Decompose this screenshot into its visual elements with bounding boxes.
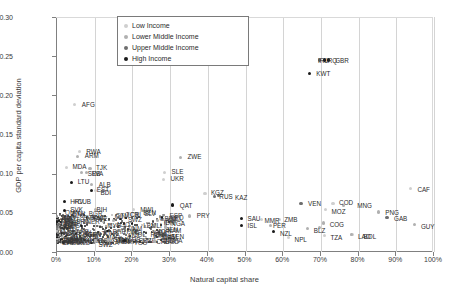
data-point-label: BDI [101, 190, 112, 196]
x-tick-label: 90% [375, 256, 415, 263]
data-point-label: CUB [78, 199, 91, 205]
scatter-chart: 0%10%20%30%40%50%60%70%80%90%100%0.000.0… [0, 0, 449, 296]
data-point-label: GTM [113, 237, 127, 243]
y-tick-label: 0.25 [0, 53, 13, 60]
y-tick-mark [52, 135, 56, 136]
data-point-label: LTU [78, 179, 89, 185]
data-point-label: GTM [115, 213, 129, 219]
data-point-label: BIH [97, 207, 108, 213]
data-point-label: SWZ [99, 242, 113, 248]
data-point [59, 234, 61, 236]
data-point-label: ISL [247, 223, 256, 229]
data-point [162, 178, 165, 181]
x-tick-label: 70% [300, 256, 340, 263]
data-point [322, 221, 325, 224]
data-point-label: MOZ [332, 209, 346, 215]
data-point-label: NLD [78, 240, 91, 246]
data-point-label: GBR [335, 58, 349, 64]
x-tick-label: 50% [225, 256, 265, 263]
data-point-label: GUY [421, 224, 435, 230]
legend-item-upper-middle-income[interactable]: Upper Middle Income [124, 42, 248, 53]
data-point-label: SVK [70, 207, 83, 213]
data-point-label: LVA [92, 171, 103, 177]
data-point-label: KAZ [235, 195, 247, 201]
data-point-label: GAB [394, 216, 407, 222]
legend-marker-high-income [124, 57, 128, 61]
data-point [240, 217, 243, 220]
data-point-label: CAF [417, 187, 430, 193]
x-tick-label: 0% [36, 256, 76, 263]
data-point-label: AUS [67, 223, 80, 229]
data-point-label: BLZ [314, 228, 326, 234]
data-point-label: PER [273, 223, 286, 229]
data-point-label: COD [339, 200, 353, 206]
data-point-label: MLI [151, 223, 162, 229]
y-tick-mark [52, 95, 56, 96]
data-point-label: VEN [308, 201, 321, 207]
data-point [163, 171, 166, 174]
data-point-label: VNM [128, 226, 142, 232]
y-axis-title: GDP per capita standard deviation [14, 26, 23, 246]
data-point-label: MWI [140, 207, 153, 213]
x-axis-title: Natural capital share [0, 275, 449, 284]
data-point-label: MYS [107, 223, 121, 229]
chart-legend: Low Income Lower Middle Income Upper Mid… [117, 16, 249, 66]
data-point-label: MDA [73, 164, 87, 170]
data-point [99, 226, 101, 228]
x-tick-label: 60% [262, 256, 302, 263]
data-point-label: IRL [318, 58, 328, 64]
data-point [56, 226, 58, 228]
legend-label-lower-middle-income: Lower Middle Income [132, 33, 199, 40]
data-point-label: BOL [364, 234, 377, 240]
x-tick-label: 100% [413, 256, 449, 263]
y-tick-mark [52, 56, 56, 57]
data-point-label: SWZ [128, 217, 142, 223]
data-point-label: PRY [197, 213, 210, 219]
data-point-label: AFG [82, 102, 95, 108]
data-point-label: SWE [93, 216, 107, 222]
data-point-label: KWT [316, 71, 330, 77]
y-tick-mark [52, 17, 56, 18]
y-tick-label: 0.20 [0, 92, 13, 99]
x-tick-label: 80% [338, 256, 378, 263]
data-point [56, 216, 58, 218]
data-point-label: AUS [128, 237, 141, 243]
data-point-label: NZL [280, 231, 292, 237]
data-point [409, 187, 412, 190]
y-tick-mark [52, 213, 56, 214]
data-point-label: QAT [180, 203, 192, 209]
y-tick-label: 0.00 [0, 249, 13, 256]
x-tick-label: 30% [149, 256, 189, 263]
legend-item-lower-middle-income[interactable]: Lower Middle Income [124, 31, 248, 42]
legend-marker-lower-middle-income [124, 35, 128, 39]
x-tick-label: 10% [74, 256, 114, 263]
x-tick-label: 40% [187, 256, 227, 263]
data-point-label: VNM [161, 238, 175, 244]
data-point-label: ZMB [284, 217, 297, 223]
legend-label-upper-middle-income: Upper Middle Income [132, 44, 199, 51]
legend-marker-low-income [124, 24, 128, 28]
data-point-label: SGP [84, 232, 97, 238]
data-point-label: RUS [219, 194, 232, 200]
data-point [377, 210, 380, 213]
data-point-label: ARM [85, 153, 99, 159]
legend-marker-upper-middle-income [124, 46, 128, 50]
y-tick-label: 0.15 [0, 131, 13, 138]
data-point-label: CHE [62, 240, 75, 246]
data-point [108, 219, 110, 221]
legend-label-low-income: Low Income [132, 22, 170, 29]
y-tick-label: 0.05 [0, 209, 13, 216]
x-tick-label: 20% [111, 256, 151, 263]
legend-label-high-income: High Income [132, 55, 171, 62]
legend-item-low-income[interactable]: Low Income [124, 20, 248, 31]
data-point [101, 226, 103, 228]
data-point-label: TZA [330, 235, 342, 241]
y-tick-label: 0.10 [0, 170, 13, 177]
data-point [63, 209, 66, 212]
legend-item-high-income[interactable]: High Income [124, 53, 248, 64]
data-point-label: ISR [64, 231, 75, 237]
y-tick-label: 0.30 [0, 14, 13, 21]
y-tick-mark [52, 174, 56, 175]
gridline-vertical [321, 17, 322, 252]
data-point [299, 202, 302, 205]
